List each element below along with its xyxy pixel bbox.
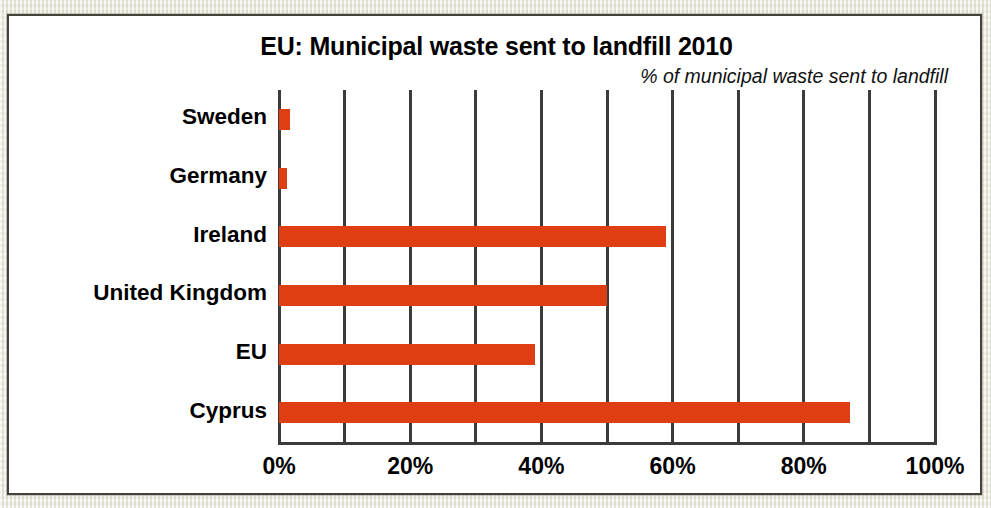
- chart-panel: EU: Municipal waste sent to landfill 201…: [7, 14, 982, 495]
- chart-title: EU: Municipal waste sent to landfill 201…: [9, 32, 984, 61]
- gridline-50: [606, 90, 609, 442]
- gridline-20: [409, 90, 412, 442]
- gridline-80: [802, 90, 805, 442]
- gridline-40: [540, 90, 543, 442]
- x-tick-0: 0%: [262, 453, 295, 480]
- category-label-eu: EU: [17, 339, 267, 365]
- category-label-ireland: Ireland: [17, 222, 267, 248]
- category-label-united-kingdom: United Kingdom: [17, 280, 267, 306]
- x-tick-80: 80%: [781, 453, 827, 480]
- x-axis-line: [278, 442, 937, 445]
- bar-sweden: [279, 109, 290, 130]
- category-label-sweden: Sweden: [17, 104, 267, 130]
- bar-germany: [279, 168, 287, 189]
- gridline-0: [278, 90, 281, 442]
- plot-area: [279, 90, 935, 442]
- gridline-100: [934, 90, 937, 442]
- page-background: EU: Municipal waste sent to landfill 201…: [0, 0, 991, 508]
- gridline-10: [343, 90, 346, 442]
- bar-eu: [279, 344, 535, 365]
- x-tick-100: 100%: [906, 453, 965, 480]
- bar-ireland: [279, 226, 666, 247]
- bar-cyprus: [279, 402, 850, 423]
- gridline-30: [474, 90, 477, 442]
- x-tick-40: 40%: [518, 453, 564, 480]
- x-tick-20: 20%: [387, 453, 433, 480]
- chart-subtitle: % of municipal waste sent to landfill: [640, 65, 948, 88]
- bar-united-kingdom: [279, 285, 607, 306]
- category-label-germany: Germany: [17, 163, 267, 189]
- category-label-cyprus: Cyprus: [17, 398, 267, 424]
- x-tick-60: 60%: [650, 453, 696, 480]
- gridline-70: [737, 90, 740, 442]
- gridline-60: [671, 90, 674, 442]
- gridline-90: [868, 90, 871, 442]
- x-axis-tick-labels: 0%20%40%60%80%100%: [279, 453, 935, 487]
- category-axis-labels: SwedenGermanyIrelandUnited KingdomEUCypr…: [17, 90, 267, 442]
